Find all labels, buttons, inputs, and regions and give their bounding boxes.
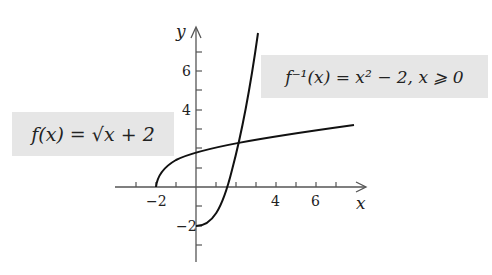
tick-y-6: 6: [182, 63, 191, 79]
label-f-inverse: f⁻¹(x) = x² − 2, x ⩾ 0: [261, 55, 488, 98]
tick-x-6: 6: [311, 193, 320, 209]
label-f: f(x) = √x + 2: [12, 112, 174, 156]
x-axis-label: x: [356, 193, 366, 213]
tick-y-neg2: −2: [176, 218, 197, 234]
tick-x-4: 4: [271, 193, 280, 209]
tick-x-neg2: −2: [146, 193, 167, 209]
curve-f-inverse: [196, 33, 258, 226]
tick-y-4: 4: [182, 102, 191, 118]
y-axis-label: y: [175, 21, 186, 41]
curve-f: [156, 125, 354, 187]
